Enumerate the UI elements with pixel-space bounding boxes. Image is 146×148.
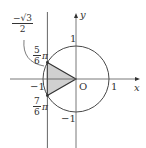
pi-symbol: π [42, 52, 48, 61]
x-tick-neg1: −1 [30, 82, 45, 92]
angle-numerator: 7 [33, 97, 41, 107]
y-tick-neg1: −1 [61, 114, 76, 124]
label-denominator: 2 [12, 24, 33, 34]
angle-denominator: 6 [33, 107, 41, 117]
angle-denominator: 6 [33, 56, 41, 66]
x-tick-1: 1 [111, 82, 117, 92]
origin-label: O [79, 82, 87, 92]
label-numerator: −√3 [12, 14, 33, 24]
point-5pi-6 [46, 61, 49, 64]
pi-symbol: π [42, 103, 48, 112]
y-tick-1: 1 [70, 34, 76, 44]
y-axis-label: y [80, 10, 86, 20]
x-axis-label: x [134, 83, 140, 93]
label-neg-sqrt3-over-2: −√3 2 [12, 14, 33, 34]
label-5pi-over-6: 5 6 [33, 46, 41, 66]
y-axis-arrow-icon [74, 13, 78, 18]
angle-numerator: 5 [33, 46, 41, 56]
point-7pi-6 [46, 94, 49, 97]
unit-circle-diagram: y x O 1 1 −1 −1 −√3 2 5 6 π 7 6 π [0, 0, 146, 148]
label-7pi-over-6: 7 6 [33, 97, 41, 117]
x-axis-arrow-icon [135, 77, 140, 81]
